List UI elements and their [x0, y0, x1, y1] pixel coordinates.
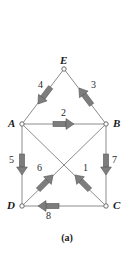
arrow-head [66, 119, 74, 130]
edge-label-5: 5 [9, 155, 14, 165]
arrow-head [17, 167, 28, 175]
node-B [104, 122, 108, 126]
arrow-shaft [19, 154, 24, 167]
flow-arrow-2 [53, 119, 74, 130]
arrow-heads-group [17, 84, 112, 211]
edge-label-3: 3 [91, 80, 96, 90]
node-label-B: B [113, 118, 120, 129]
node-label-E: E [60, 55, 67, 66]
figure-caption: (a) [0, 232, 134, 243]
node-label-D: D [7, 200, 15, 211]
edge-label-6: 6 [37, 163, 42, 173]
node-label-A: A [8, 118, 15, 129]
arrow-head [38, 201, 46, 212]
arrow-shaft [53, 121, 66, 126]
edge-label-4: 4 [38, 80, 43, 90]
edge-label-1: 1 [83, 163, 88, 173]
flow-arrow-7 [101, 154, 112, 175]
arrow-shaft [46, 203, 59, 208]
edge-label-8: 8 [46, 211, 51, 221]
flow-arrow-5 [17, 154, 28, 175]
node-label-C: C [113, 200, 120, 211]
arrow-shaft [103, 154, 108, 167]
node-D [20, 204, 24, 208]
edge-label-7: 7 [112, 155, 117, 165]
edge-label-2: 2 [61, 108, 66, 118]
node-A [20, 122, 24, 126]
node-C [104, 204, 108, 208]
node-E [62, 67, 66, 71]
figure-container: EABDC 12345678 (a) [0, 0, 134, 255]
arrow-head [101, 167, 112, 175]
